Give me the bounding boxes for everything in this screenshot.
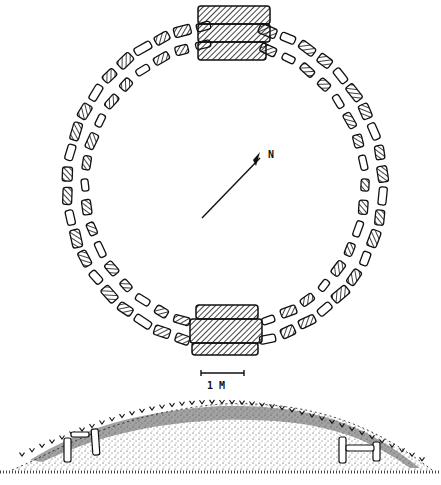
ring-stone: [374, 210, 384, 226]
ring-stone: [153, 324, 171, 339]
ring-stone: [134, 293, 150, 307]
ring-stone: [94, 241, 107, 258]
ring-stone: [361, 179, 370, 191]
capstone: [346, 445, 374, 451]
north-label: N: [268, 149, 274, 160]
ring-stone: [173, 314, 191, 326]
ring-stone: [316, 53, 333, 69]
ring-stone: [330, 285, 350, 304]
ring-stone: [81, 179, 89, 192]
ring-stone: [366, 229, 381, 248]
ring-stone: [299, 62, 316, 78]
ring-stone: [358, 155, 368, 171]
upright-stone: [373, 442, 380, 461]
ring-stone: [63, 187, 73, 204]
grass-tuft: [170, 403, 175, 407]
ring-stone: [64, 144, 76, 162]
ring-stone: [65, 209, 76, 225]
ring-stone: [352, 220, 364, 237]
ring-stone: [77, 102, 93, 120]
ring-stone: [332, 94, 345, 110]
ring-stone: [359, 251, 371, 267]
ring-stone: [316, 301, 333, 317]
ring-stone: [174, 44, 189, 56]
grass-tuft: [160, 405, 165, 409]
ring-stone: [117, 301, 134, 317]
ring-stone: [88, 269, 103, 285]
ring-stone: [342, 112, 357, 130]
grass-tuft: [150, 407, 155, 411]
north-arrow: N: [202, 149, 274, 218]
grass-tuft: [420, 457, 425, 461]
ring-stone: [318, 279, 331, 293]
ring-stone: [88, 83, 104, 102]
ring-stone: [330, 260, 346, 277]
entrance-block: [198, 42, 266, 60]
ring-stone: [317, 77, 332, 92]
grass-tuft: [220, 400, 225, 404]
ring-stone: [135, 64, 151, 77]
grass-tuft: [120, 414, 125, 418]
ring-stone: [358, 103, 373, 121]
grass-tuft: [20, 453, 25, 457]
ring-stone: [119, 278, 133, 292]
stone-circle-drawing: N 1 M: [0, 0, 441, 485]
ring-stone: [69, 122, 83, 142]
ring-stone: [332, 67, 348, 85]
ring-stone: [261, 315, 276, 326]
section-view: [0, 400, 441, 472]
ring-stone: [344, 242, 356, 257]
grass-tuft: [200, 400, 205, 404]
ring-stone: [378, 187, 388, 206]
ring-stone: [153, 51, 171, 66]
scale-bar: 1 M: [201, 370, 244, 391]
ring-stone: [352, 134, 364, 149]
ring-stone: [133, 40, 153, 56]
ring-stone: [376, 165, 388, 182]
entrance-block: [192, 343, 258, 355]
grass-tuft: [210, 400, 215, 404]
ring-stone: [367, 122, 381, 141]
entrance-block: [196, 305, 258, 319]
ring-stone: [345, 83, 363, 103]
grass-tuft: [190, 401, 195, 405]
ring-stone: [119, 77, 134, 92]
ring-stone: [299, 293, 315, 308]
entrance-block: [198, 6, 270, 24]
scale-label: 1 M: [207, 380, 225, 391]
grass-tuft: [230, 400, 235, 404]
ring-stone: [174, 333, 190, 346]
entrance-bottom: [190, 305, 262, 355]
entrance-top: [198, 6, 270, 60]
grass-tuft: [140, 409, 145, 413]
ring-stone: [101, 68, 117, 84]
grass-tuft: [90, 424, 95, 428]
ring-stone: [77, 249, 92, 267]
grass-tuft: [40, 444, 45, 448]
ring-stone: [297, 314, 316, 329]
ring-stone: [116, 52, 134, 70]
ring-stone: [62, 167, 72, 181]
entrance-block: [198, 24, 270, 42]
ring-stone: [374, 145, 385, 160]
grass-tuft: [100, 420, 105, 424]
grass-tuft: [130, 411, 135, 415]
upright-stone: [339, 437, 346, 463]
ring-stone: [279, 324, 296, 339]
grass-tuft: [50, 440, 55, 444]
grass-tuft: [30, 448, 35, 452]
ring-stone: [69, 229, 83, 249]
upright-stone: [91, 429, 100, 455]
ring-stone: [104, 260, 120, 276]
ring-stone: [133, 313, 152, 330]
ring-stone: [100, 285, 119, 304]
capstone: [71, 432, 89, 437]
entrance-block: [190, 319, 262, 343]
ring-stone: [173, 24, 192, 38]
grass-tuft: [80, 428, 85, 432]
ring-stone: [279, 32, 296, 45]
ring-stone: [94, 113, 106, 128]
ring-stone: [153, 31, 170, 46]
grass-tuft: [110, 417, 115, 421]
ring-stone: [82, 155, 92, 170]
